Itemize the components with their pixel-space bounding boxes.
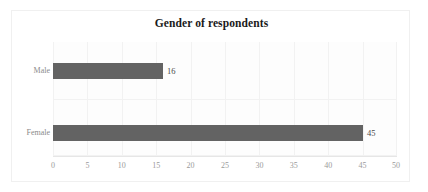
x-tick-label: 40	[318, 161, 338, 170]
bar-female[interactable]	[53, 125, 363, 141]
x-tick-label: 10	[112, 161, 132, 170]
x-tick-label: 50	[386, 161, 406, 170]
x-tick-label: 20	[181, 161, 201, 170]
chart-frame: Gender of respondents 16 45 Male Female …	[11, 10, 410, 182]
x-axis-line	[53, 156, 397, 157]
bar-value-male: 16	[167, 63, 176, 79]
x-tick-label: 15	[146, 161, 166, 170]
bar-value-female: 45	[367, 125, 376, 141]
x-tick-label: 25	[215, 161, 235, 170]
x-tick-label: 45	[353, 161, 373, 170]
gridline-horizontal	[53, 99, 397, 100]
category-label-male: Male	[12, 63, 50, 79]
x-tick-label: 5	[77, 161, 97, 170]
category-label-female: Female	[12, 125, 50, 141]
chart-title: Gender of respondents	[12, 17, 411, 29]
bar-male[interactable]	[53, 63, 163, 79]
x-tick-label: 30	[249, 161, 269, 170]
x-tick-label: 0	[43, 161, 63, 170]
x-tick-label: 35	[284, 161, 304, 170]
